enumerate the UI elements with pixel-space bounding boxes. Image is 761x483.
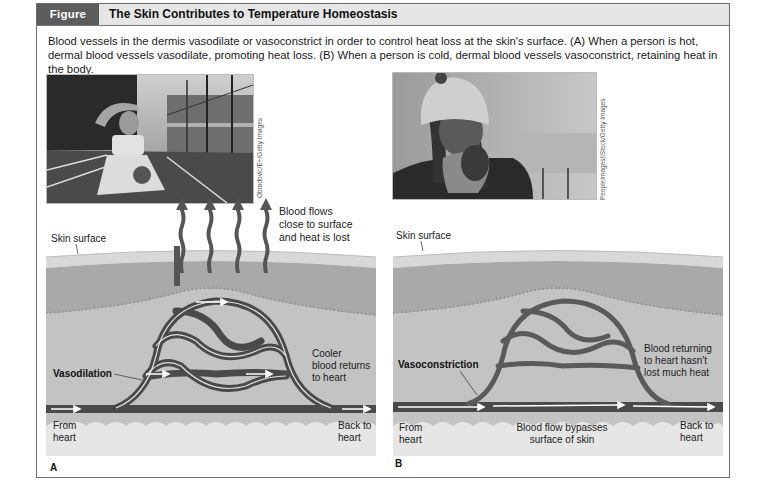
photo-credit-b: PeopleImages/iStock/Getty Images	[599, 98, 606, 200]
figure-header: Figure 6.13 The Skin Contributes to Temp…	[37, 4, 729, 26]
athlete-photo-image	[47, 75, 253, 203]
label-vasoconstriction: Vasoconstriction	[398, 359, 479, 371]
cold-woman-photo-image	[393, 73, 596, 199]
label-from-heart-b: From heart	[399, 422, 422, 446]
label-back-to-heart-b: Back to heart	[680, 420, 713, 444]
label-blood-returning: Blood returning to heart hasn't lost muc…	[644, 343, 712, 379]
label-from-heart-a: From heart	[53, 420, 76, 444]
skin-surface-leader-a	[75, 244, 81, 254]
photo-athlete	[46, 74, 254, 204]
label-back-to-heart-a: Back to heart	[338, 420, 371, 444]
label-bypass: Blood flow bypasses surface of skin	[508, 422, 616, 446]
skin-surface-leader-b	[420, 241, 426, 251]
photo-credit-a: Obradovic/E+/Getty Images	[256, 118, 263, 198]
figure-number: Figure 6.13	[37, 4, 99, 25]
panel-letter-b: B	[395, 458, 402, 469]
vasodilation-leader	[114, 370, 144, 382]
figure-title: The Skin Contributes to Temperature Home…	[109, 4, 398, 25]
heat-loss-arrows	[166, 198, 276, 273]
label-heat-lost: Blood flows close to surface and heat is…	[279, 205, 353, 244]
figure-caption: Blood vessels in the dermis vasodilate o…	[48, 34, 724, 76]
vasoconstriction-leader	[460, 371, 480, 397]
photo-cold-woman	[392, 72, 597, 200]
label-cooler-blood: Cooler blood returns to heart	[312, 348, 370, 384]
panel-letter-a: A	[50, 462, 57, 473]
label-vasodilation: Vasodilation	[53, 368, 112, 380]
